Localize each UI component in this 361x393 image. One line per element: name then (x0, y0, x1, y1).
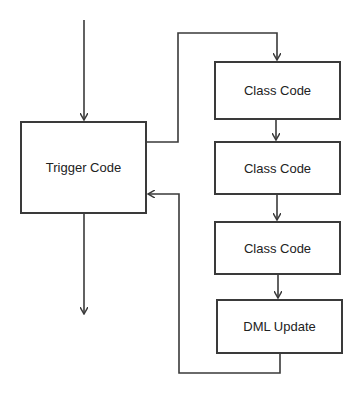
node-label: DML Update (243, 319, 316, 334)
class-code-node-2: Class Code (214, 141, 341, 195)
node-label: Class Code (244, 241, 311, 256)
trigger-code-node: Trigger Code (20, 121, 147, 214)
node-label: Trigger Code (46, 160, 121, 175)
node-label: Class Code (244, 161, 311, 176)
class-code-node-3: Class Code (214, 221, 341, 275)
node-label: Class Code (244, 83, 311, 98)
dml-update-node: DML Update (216, 299, 343, 354)
class-code-node-1: Class Code (214, 61, 341, 120)
